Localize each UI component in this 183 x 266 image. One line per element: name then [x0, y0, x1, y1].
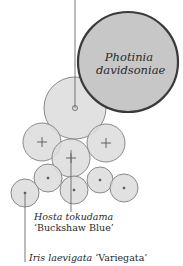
dot-marker-icon: [123, 187, 125, 189]
label-iris-genus: Iris laevigata: [29, 252, 92, 263]
label-hosta-line1: Hosta tokudama: [34, 211, 114, 222]
label-hosta: Hosta tokudama ‘Buckshaw Blue’: [34, 211, 114, 233]
label-hosta-line2: ‘Buckshaw Blue’: [34, 222, 114, 233]
label-photinia-line2: davidsoniae: [96, 64, 162, 77]
label-iris-cultivar: ‘Variegata’: [95, 252, 147, 263]
dot-marker-icon: [73, 189, 75, 191]
label-iris: Iris laevigata ‘Variegata’: [29, 252, 147, 263]
label-photinia: Photinia davidsoniae: [96, 51, 162, 77]
dot-marker-icon: [47, 177, 49, 179]
dot-marker-icon: [99, 179, 101, 181]
